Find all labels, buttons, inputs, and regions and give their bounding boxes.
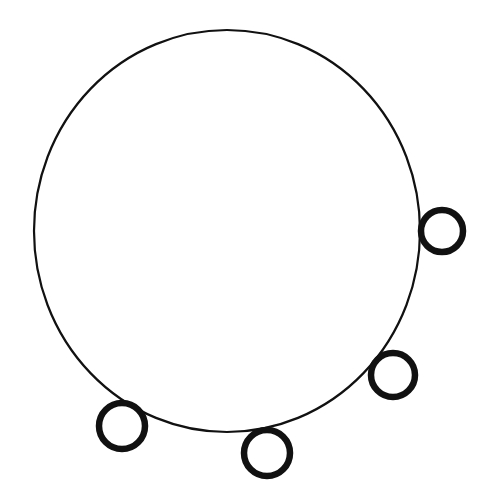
small-circles-group [99,210,463,476]
small-circle-lower-right [371,353,415,397]
small-circle-bottom-left [99,403,145,449]
main-circle [34,30,420,432]
diagram-canvas [0,0,487,500]
small-circle-right [421,210,463,252]
small-circle-bottom [244,430,290,476]
